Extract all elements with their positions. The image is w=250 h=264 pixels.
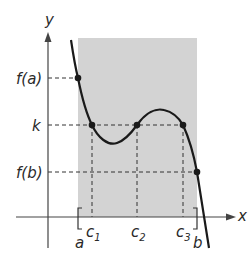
c1-label: c1 — [86, 223, 101, 243]
fa-label: f(a) — [16, 70, 42, 88]
point-c1 — [89, 122, 96, 129]
ivt-diagram: y x f(a) k f(b) a b c1 c2 c3 — [0, 0, 250, 264]
fb-label: f(b) — [16, 164, 43, 182]
x-axis-arrow-icon — [226, 214, 236, 221]
point-fb — [194, 169, 201, 176]
point-c3 — [180, 122, 187, 129]
k-label: k — [32, 117, 42, 135]
point-c2 — [134, 122, 141, 129]
a-label: a — [75, 234, 84, 252]
y-axis-arrow-icon — [45, 32, 52, 42]
c2-sub: 2 — [139, 232, 145, 243]
c2-label: c2 — [131, 223, 146, 243]
b-label: b — [193, 234, 203, 252]
c3-sub: 3 — [184, 232, 190, 243]
c3-label: c3 — [176, 223, 191, 243]
x-axis-label: x — [237, 207, 247, 225]
point-fa — [75, 75, 82, 82]
c1-sub: 1 — [94, 232, 100, 243]
y-axis-label: y — [44, 11, 55, 29]
